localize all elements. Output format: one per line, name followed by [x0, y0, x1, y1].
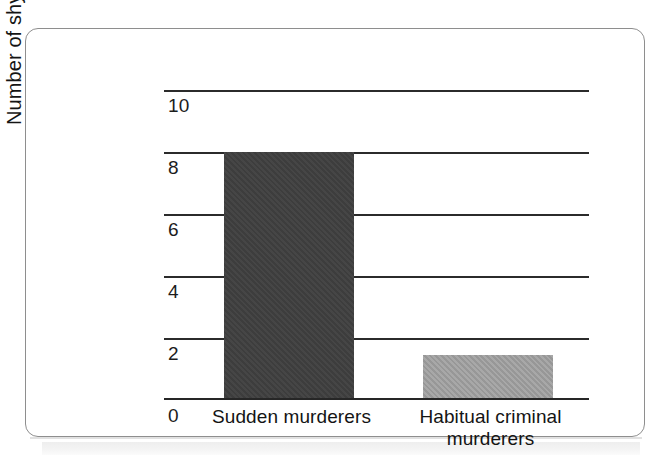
ytick-label-10: 10 [168, 96, 190, 115]
ytick-label-2: 2 [168, 344, 179, 363]
bar-sudden-murderers[interactable] [224, 152, 354, 398]
x-category-label-line2: murderers [447, 428, 534, 449]
x-category-label-line1: Sudden murderers [212, 406, 371, 427]
x-category-label-sudden-murderers: Sudden murderers [184, 406, 399, 428]
ytick-label-4: 4 [168, 282, 179, 301]
bar-habitual-criminal-murderers[interactable] [423, 355, 553, 398]
y-axis-title: Number of shy inmates [4, 0, 24, 125]
gridline-10 [164, 90, 589, 92]
figure-card: Number of shy inmates 10 8 6 4 2 0 Sudde… [25, 28, 645, 437]
chart-plot-area: 10 8 6 4 2 0 [164, 90, 589, 400]
x-category-label-line1: Habitual criminal [419, 406, 561, 427]
ytick-label-0: 0 [168, 406, 179, 425]
ytick-label-6: 6 [168, 220, 179, 239]
x-axis-baseline [164, 398, 589, 400]
x-category-label-habitual-criminal-murderers: Habitual criminal murderers [383, 406, 598, 450]
ytick-label-8: 8 [168, 158, 179, 177]
